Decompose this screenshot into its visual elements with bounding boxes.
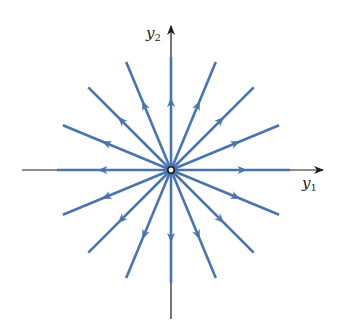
- y1-axis-label: y1: [301, 174, 317, 193]
- trajectory-ray: [171, 170, 254, 253]
- trajectory-ray: [88, 170, 171, 253]
- origin-node: [168, 167, 174, 173]
- phase-portrait-diagram: y2 y1: [0, 0, 337, 328]
- trajectory-ray: [171, 87, 254, 170]
- trajectory-ray: [88, 87, 171, 170]
- y2-axis-label: y2: [145, 24, 161, 43]
